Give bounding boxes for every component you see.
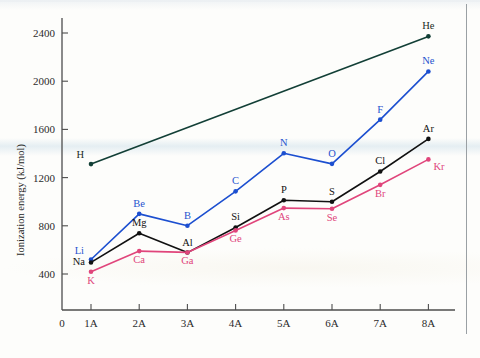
point-label: Mg	[132, 217, 147, 228]
series-line-period-1-2	[91, 36, 428, 164]
point-label: Li	[75, 245, 84, 256]
point-label: K	[87, 275, 95, 286]
point-label: H	[76, 149, 84, 160]
data-point	[426, 137, 431, 142]
data-point	[185, 223, 190, 228]
point-label: P	[281, 184, 287, 195]
y-tick-label: 400	[39, 268, 56, 280]
point-label: O	[328, 148, 336, 159]
data-point	[378, 169, 383, 174]
chart-series-group	[89, 34, 431, 274]
point-label: C	[232, 175, 239, 186]
data-point	[137, 212, 142, 217]
chart-axes	[62, 18, 455, 310]
x-axis-ticks: 01A2A3A4A5A6A7A8A	[59, 304, 435, 329]
data-point	[330, 199, 335, 204]
data-point	[185, 250, 190, 255]
point-label: Na	[73, 256, 86, 267]
data-point	[89, 260, 94, 265]
x-tick-label: 7A	[373, 317, 387, 329]
data-point	[330, 162, 335, 167]
x-tick-label: 3A	[181, 317, 195, 329]
point-label: Kr	[433, 161, 445, 172]
data-point	[378, 183, 383, 188]
data-point	[426, 157, 431, 162]
point-label: He	[422, 20, 435, 31]
x-tick-label: 8A	[422, 317, 436, 329]
y-tick-label: 1200	[33, 172, 56, 184]
x-tick-label: 6A	[325, 317, 339, 329]
y-axis-title: Ionization energy (kJ/mol)	[15, 144, 27, 256]
data-point	[378, 117, 383, 122]
data-point	[282, 206, 287, 211]
point-label: Se	[327, 212, 338, 223]
x-tick-label-origin: 0	[59, 317, 65, 329]
point-label: Si	[231, 211, 240, 222]
ionization-energy-figure: 4008001200160020002400 01A2A3A4A5A6A7A8A…	[0, 0, 480, 358]
point-label: Ga	[181, 255, 194, 266]
point-label: N	[280, 137, 288, 148]
point-label: Br	[375, 188, 386, 199]
x-tick-label: 4A	[229, 317, 243, 329]
data-point	[282, 151, 287, 156]
point-label: S	[329, 186, 335, 197]
ionization-energy-chart: 4008001200160020002400 01A2A3A4A5A6A7A8A…	[0, 0, 480, 358]
point-label: Ge	[229, 233, 242, 244]
data-point	[282, 198, 287, 203]
point-label: B	[184, 210, 191, 221]
y-tick-label: 2000	[33, 75, 56, 87]
y-tick-label: 800	[39, 220, 56, 232]
x-tick-label: 2A	[132, 317, 146, 329]
data-point	[233, 189, 238, 194]
point-label: Ar	[423, 123, 435, 134]
data-point	[233, 228, 238, 233]
data-point	[426, 34, 431, 39]
point-label: Cl	[375, 155, 385, 166]
data-point	[137, 231, 142, 236]
data-point	[89, 269, 94, 274]
chart-point-labels: HHeLiBeBCNOFNeNaMgAlSiPSClArKCaGaGeAsSeB…	[73, 20, 445, 285]
point-label: As	[278, 211, 290, 222]
y-tick-label: 1600	[33, 123, 56, 135]
x-tick-label: 5A	[277, 317, 291, 329]
point-label: Ca	[133, 254, 145, 265]
y-tick-label: 2400	[33, 27, 56, 39]
point-label: Ne	[422, 55, 435, 66]
data-point	[137, 249, 142, 254]
x-tick-label: 1A	[84, 317, 98, 329]
point-label: F	[377, 104, 383, 115]
y-axis-ticks: 4008001200160020002400	[33, 27, 68, 280]
point-label: Be	[133, 198, 145, 209]
data-point	[330, 207, 335, 212]
point-label: Al	[182, 237, 193, 248]
data-point	[89, 162, 94, 167]
data-point	[426, 69, 431, 74]
